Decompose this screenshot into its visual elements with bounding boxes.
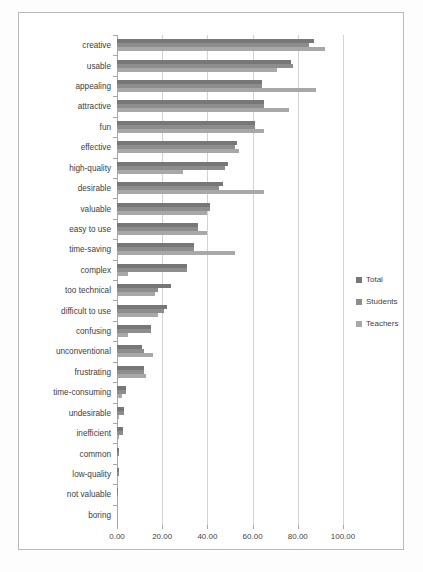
bar-teachers	[117, 149, 239, 153]
x-axis-tick	[343, 525, 344, 529]
legend-swatch-icon	[356, 299, 362, 305]
legend-swatch-icon	[356, 277, 362, 283]
y-axis-tick	[113, 239, 117, 240]
y-axis-category-label: high-quality	[69, 163, 111, 172]
y-axis-tick	[113, 300, 117, 301]
y-axis-category-label: not valuable	[67, 490, 111, 499]
chart-category-row: confusing	[117, 321, 343, 341]
y-axis-category-label: usable	[87, 61, 111, 70]
chart-category-row: high-quality	[117, 158, 343, 178]
chart-frame: 0.0020.0040.0060.0080.00100.00creativeus…	[18, 12, 404, 550]
y-axis-category-label: undesirable	[69, 408, 111, 417]
chart-category-row: creative	[117, 35, 343, 55]
bar-teachers	[117, 251, 235, 255]
y-axis-category-label: complex	[81, 265, 112, 274]
bar-teachers	[117, 374, 146, 378]
y-axis-category-label: valuable	[81, 204, 112, 213]
chart-category-row: easy to use	[117, 219, 343, 239]
x-axis-tick	[298, 525, 299, 529]
y-axis-tick	[113, 96, 117, 97]
y-axis-tick	[113, 76, 117, 77]
bar-teachers	[117, 292, 155, 296]
y-axis-tick	[113, 423, 117, 424]
legend-label: Teachers	[366, 319, 398, 328]
y-axis-category-label: difficult to use	[61, 306, 111, 315]
chart-category-row: unconventional	[117, 341, 343, 361]
chart-category-row: too technical	[117, 280, 343, 300]
y-axis-tick	[113, 464, 117, 465]
chart-category-row: boring	[117, 505, 343, 525]
x-axis-tick-label: 60.00	[243, 532, 263, 541]
y-axis-category-label: unconventional	[56, 347, 111, 356]
bar-teachers	[117, 456, 118, 460]
legend-label: Total	[366, 275, 383, 284]
y-axis-tick	[113, 484, 117, 485]
chart-category-row: complex	[117, 260, 343, 280]
bar-teachers	[117, 88, 316, 92]
bar-teachers	[117, 496, 118, 500]
legend-item[interactable]: Teachers	[356, 319, 418, 328]
y-axis-category-label: inefficient	[77, 429, 111, 438]
x-axis-tick-label: 100.00	[331, 532, 355, 541]
legend-swatch-icon	[356, 321, 362, 327]
y-axis-tick	[113, 280, 117, 281]
y-axis-category-label: effective	[81, 143, 111, 152]
bar-teachers	[117, 435, 119, 439]
chart-category-row: attractive	[117, 96, 343, 116]
y-axis-tick	[113, 178, 117, 179]
bar-teachers	[117, 47, 325, 51]
y-axis-category-label: appealing	[75, 82, 111, 91]
bar-teachers	[117, 68, 277, 72]
y-axis-category-label: too technical	[65, 286, 111, 295]
x-gridline	[343, 35, 344, 525]
chart-legend: TotalStudentsTeachers	[356, 275, 418, 341]
y-axis-tick	[113, 341, 117, 342]
legend-item[interactable]: Total	[356, 275, 418, 284]
x-axis-tick-label: 80.00	[288, 532, 308, 541]
chart-category-row: effective	[117, 137, 343, 157]
x-axis-tick-label: 0.00	[109, 532, 125, 541]
chart-category-row: desirable	[117, 178, 343, 198]
bar-teachers	[117, 231, 207, 235]
y-axis-tick	[113, 35, 117, 36]
bar-teachers	[117, 476, 118, 480]
chart-category-row: not valuable	[117, 484, 343, 504]
bar-teachers	[117, 170, 183, 174]
y-axis-tick	[113, 198, 117, 199]
y-axis-category-label: frustrating	[75, 367, 111, 376]
bar-teachers	[117, 272, 128, 276]
chart-category-row: difficult to use	[117, 300, 343, 320]
y-axis-category-label: time-consuming	[53, 388, 111, 397]
plot-area: 0.0020.0040.0060.0080.00100.00creativeus…	[117, 35, 343, 525]
bar-teachers	[117, 129, 264, 133]
chart-category-row: undesirable	[117, 403, 343, 423]
y-axis-category-label: easy to use	[69, 224, 111, 233]
y-axis-category-label: confusing	[76, 327, 111, 336]
bar-teachers	[117, 108, 289, 112]
y-axis-category-label: time-saving	[69, 245, 111, 254]
y-axis-tick	[113, 137, 117, 138]
y-axis-category-label: boring	[88, 510, 111, 519]
bar-teachers	[117, 211, 207, 215]
y-axis-category-label: desirable	[78, 184, 111, 193]
y-axis-tick	[113, 443, 117, 444]
y-axis-category-label: common	[80, 449, 111, 458]
y-axis-tick	[113, 403, 117, 404]
bar-teachers	[117, 333, 128, 337]
y-axis-category-label: attractive	[78, 102, 111, 111]
bar-teachers	[117, 190, 264, 194]
y-axis-category-label: creative	[82, 41, 111, 50]
legend-item[interactable]: Students	[356, 297, 418, 306]
chart-category-row: time-saving	[117, 239, 343, 259]
chart-category-row: frustrating	[117, 362, 343, 382]
bar-teachers	[117, 415, 119, 419]
x-axis-tick	[162, 525, 163, 529]
bar-teachers	[117, 394, 122, 398]
chart-category-row: appealing	[117, 76, 343, 96]
y-axis-category-label: fun	[100, 122, 111, 131]
chart-category-row: common	[117, 443, 343, 463]
y-axis-tick	[113, 260, 117, 261]
chart-category-row: time-consuming	[117, 382, 343, 402]
chart-category-row: fun	[117, 117, 343, 137]
x-axis-tick	[117, 525, 118, 529]
